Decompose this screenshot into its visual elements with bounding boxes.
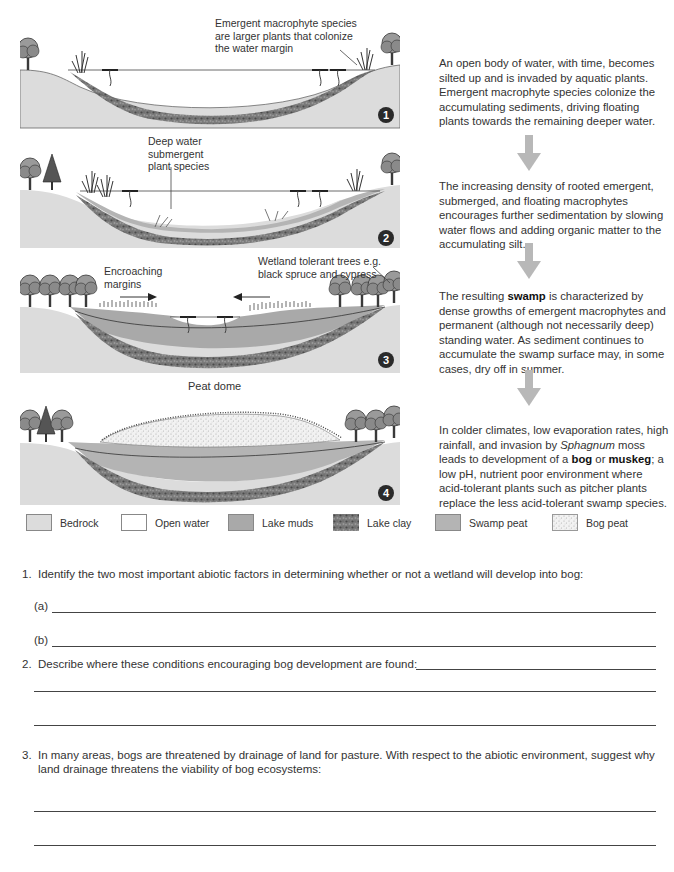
question-1a-label: (a) — [34, 600, 48, 612]
swamp-term: swamp — [507, 290, 545, 302]
question-1: 1. Identify the two most important abiot… — [22, 567, 662, 581]
bog-term: bog — [572, 453, 593, 465]
answer-line-3a[interactable] — [34, 811, 656, 812]
legend-item-swamp-peat: Swamp peat — [435, 514, 527, 531]
legend-item-bedrock: Bedrock — [26, 514, 99, 531]
stage-2-description: The increasing density of rooted emergen… — [439, 179, 669, 252]
diagram-stage-2: 2 Deep water submergent plant species — [20, 135, 400, 250]
emergent-macrophyte-callout: Emergent macrophyte species are larger p… — [215, 17, 365, 55]
answer-line-2-inline[interactable] — [416, 669, 656, 670]
legend: Bedrock Open water Lake muds Lake clay S… — [20, 514, 660, 534]
swamp-peat-swatch-icon — [435, 514, 461, 531]
lake-muds-swatch-icon — [228, 514, 254, 531]
answer-line-1b[interactable] — [52, 646, 656, 647]
down-arrow-icon — [517, 243, 541, 279]
encroaching-margins-callout: Encroaching margins — [104, 265, 174, 290]
legend-item-open-water: Open water — [121, 514, 209, 531]
lake-clay-swatch-icon — [333, 514, 359, 531]
answer-line-2b[interactable] — [34, 725, 656, 726]
legend-item-lake-clay: Lake clay — [333, 514, 411, 531]
down-arrow-icon — [517, 135, 541, 171]
question-1b-label: (b) — [34, 634, 48, 646]
answer-line-2a[interactable] — [34, 691, 656, 692]
stage-3-description: The resulting swamp is characterized by … — [439, 289, 669, 377]
bog-peat-swatch-icon — [552, 514, 578, 531]
legend-item-bog-peat: Bog peat — [552, 514, 628, 531]
stage-1-description: An open body of water, with time, become… — [439, 56, 669, 129]
svg-text:3: 3 — [383, 354, 389, 366]
svg-text:4: 4 — [383, 487, 390, 499]
diagram-stage-3: 3 Encroaching margins Wetland tolerant t… — [20, 255, 400, 375]
peat-dome-callout: Peat dome — [188, 380, 268, 393]
answer-line-3b[interactable] — [34, 845, 656, 846]
legend-item-lake-muds: Lake muds — [228, 514, 313, 531]
svg-text:1: 1 — [383, 109, 389, 121]
bedrock-swatch-icon — [26, 514, 52, 531]
muskeg-term: muskeg — [609, 453, 652, 465]
wetland-trees-callout: Wetland tolerant trees e.g. black spruce… — [258, 255, 383, 280]
stage-4-description: In colder climates, low evaporation rate… — [439, 423, 669, 511]
diagram-stage-1: 1 Emergent macrophyte species are larger… — [20, 15, 400, 130]
diagram-stage-4: 4 Peat dome — [20, 378, 400, 508]
down-arrow-icon — [517, 370, 541, 406]
open-water-swatch-icon — [121, 514, 147, 531]
question-3: 3. In many areas, bogs are threatened by… — [22, 748, 658, 776]
answer-line-1a[interactable] — [52, 612, 656, 613]
svg-text:2: 2 — [383, 232, 389, 244]
sphagnum-term: Sphagnum — [560, 439, 615, 451]
submergent-species-callout: Deep water submergent plant species — [148, 135, 218, 173]
